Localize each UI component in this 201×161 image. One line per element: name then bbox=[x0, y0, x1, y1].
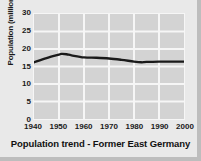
x-tick-1990: 1990 bbox=[151, 122, 169, 131]
y-tick-20: 20 bbox=[22, 45, 31, 53]
x-tick-1960: 1960 bbox=[75, 122, 93, 131]
chart-figure: Population (millions) 051015202530 19401… bbox=[0, 0, 201, 161]
plot-area bbox=[33, 13, 185, 120]
y-tick-5: 5 bbox=[27, 98, 31, 106]
x-axis-tick-labels: 1940195019601970198019902000 bbox=[33, 122, 185, 133]
x-tick-2000: 2000 bbox=[176, 122, 194, 131]
x-tick-1970: 1970 bbox=[100, 122, 118, 131]
y-axis-tick-labels: 051015202530 bbox=[12, 9, 31, 121]
x-tick-1980: 1980 bbox=[125, 122, 143, 131]
y-tick-25: 25 bbox=[22, 27, 31, 35]
chart-title: Population trend - Former East Germany bbox=[8, 138, 193, 149]
y-tick-10: 10 bbox=[22, 80, 31, 88]
x-tick-1940: 1940 bbox=[24, 122, 42, 131]
x-tick-1950: 1950 bbox=[49, 122, 67, 131]
page-edge-bottom bbox=[0, 157, 201, 161]
gridlines bbox=[34, 14, 184, 119]
chart-canvas bbox=[34, 14, 184, 119]
page-edge-right bbox=[197, 0, 201, 161]
y-tick-30: 30 bbox=[22, 9, 31, 17]
y-tick-15: 15 bbox=[22, 63, 31, 71]
